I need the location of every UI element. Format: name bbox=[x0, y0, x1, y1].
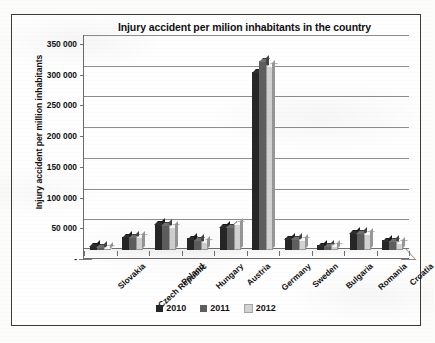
bar-slovakia-2012[interactable] bbox=[104, 247, 111, 250]
bar-czech-republic-2012[interactable] bbox=[136, 236, 143, 250]
bar-poland-2010[interactable] bbox=[155, 224, 162, 250]
x-axis-label-croatia: Croatia bbox=[407, 261, 435, 288]
bar-austria-2010[interactable] bbox=[220, 227, 227, 250]
x-axis-tick-mark bbox=[247, 251, 248, 256]
bar-group bbox=[344, 35, 377, 250]
bar-czech-republic-2011[interactable] bbox=[129, 237, 136, 251]
x-axis-tick-mark bbox=[409, 251, 410, 256]
x-axis-tick-mark bbox=[377, 251, 378, 256]
bar-group bbox=[247, 35, 280, 250]
x-axis-label-austria: Austria bbox=[245, 261, 273, 288]
bar-czech-republic-2010[interactable] bbox=[122, 237, 129, 251]
bar-poland-2011[interactable] bbox=[162, 225, 169, 250]
bar-hungary-2012[interactable] bbox=[201, 241, 208, 250]
bar-bulgaria-2012[interactable] bbox=[331, 244, 338, 250]
x-axis-ticks bbox=[84, 251, 409, 256]
y-axis-title: Injury accident per million inhabitants bbox=[34, 42, 44, 222]
bar-sweden-2011[interactable] bbox=[292, 238, 299, 250]
legend-swatch-2011 bbox=[200, 305, 207, 312]
y-axis-tick-label: 250 000 bbox=[47, 100, 77, 110]
bar-romania-2012[interactable] bbox=[364, 233, 371, 250]
y-axis-tick-label: 100 000 bbox=[47, 193, 77, 203]
bar-romania-2011[interactable] bbox=[357, 233, 364, 250]
x-axis-tick-mark bbox=[149, 251, 150, 256]
x-axis-tick-mark bbox=[279, 251, 280, 256]
legend-label-2011: 2011 bbox=[210, 303, 230, 313]
x-axis-label-romania: Romania bbox=[376, 261, 409, 292]
x-axis-label-slovakia: Slovakia bbox=[116, 261, 148, 291]
legend-item-2010[interactable]: 2010 bbox=[156, 303, 186, 313]
x-axis-tick-mark bbox=[182, 251, 183, 256]
y-axis-tick-label: 350 000 bbox=[47, 39, 77, 49]
bar-austria-2011[interactable] bbox=[227, 226, 234, 250]
x-axis-tick-mark bbox=[214, 251, 215, 256]
bar-groups bbox=[84, 35, 409, 250]
legend: 201020112012 bbox=[12, 303, 420, 313]
x-axis-label-hungary: Hungary bbox=[214, 261, 246, 291]
bar-group bbox=[377, 35, 410, 250]
legend-label-2010: 2010 bbox=[166, 303, 186, 313]
legend-swatch-2010 bbox=[156, 305, 163, 312]
y-axis-tick-label: 50 000 bbox=[51, 223, 77, 233]
bar-croatia-2012[interactable] bbox=[396, 241, 403, 250]
y-axis-tick-label: 150 000 bbox=[47, 162, 77, 172]
bar-sweden-2012[interactable] bbox=[299, 239, 306, 250]
chart-title: Injury accident per milion inhabitants i… bbox=[72, 21, 417, 33]
bar-group bbox=[312, 35, 345, 250]
bar-group bbox=[117, 35, 150, 250]
legend-item-2012[interactable]: 2012 bbox=[244, 303, 276, 313]
legend-swatch-2012 bbox=[244, 304, 253, 313]
x-axis-label-germany: Germany bbox=[279, 261, 312, 293]
legend-label-2012: 2012 bbox=[256, 303, 276, 313]
legend-item-2011[interactable]: 2011 bbox=[200, 303, 230, 313]
bar-group bbox=[279, 35, 312, 250]
x-axis-tick-mark bbox=[312, 251, 313, 256]
bar-germany-2011[interactable] bbox=[259, 61, 266, 250]
bar-sweden-2010[interactable] bbox=[285, 238, 292, 250]
bar-austria-2012[interactable] bbox=[234, 223, 241, 250]
plot-area: -50 000100 000150 000200 000250 000300 0… bbox=[84, 35, 409, 250]
x-axis-tick-mark bbox=[344, 251, 345, 256]
x-axis-tick-mark bbox=[117, 251, 118, 256]
bar-group bbox=[84, 35, 117, 250]
chart-frame: Injury accident per milion inhabitants i… bbox=[11, 14, 421, 326]
x-axis-label-sweden: Sweden bbox=[310, 261, 340, 289]
bar-group bbox=[182, 35, 215, 250]
x-axis-label-poland: Poland bbox=[179, 261, 206, 287]
x-axis-label-bulgaria: Bulgaria bbox=[343, 261, 374, 291]
bar-poland-2012[interactable] bbox=[169, 225, 176, 250]
y-axis-tick-label: 200 000 bbox=[47, 131, 77, 141]
bar-slovakia-2011[interactable] bbox=[97, 246, 104, 250]
bar-romania-2010[interactable] bbox=[350, 233, 357, 250]
bar-bulgaria-2011[interactable] bbox=[324, 246, 331, 250]
bar-germany-2012[interactable] bbox=[266, 65, 273, 251]
bar-germany-2010[interactable] bbox=[252, 72, 259, 250]
x-axis-tick-mark bbox=[84, 251, 85, 256]
bar-croatia-2011[interactable] bbox=[389, 241, 396, 250]
bar-group bbox=[214, 35, 247, 250]
x-axis-labels: SlovakiaCzech RepublicPolandHungaryAustr… bbox=[84, 255, 409, 310]
bar-group bbox=[149, 35, 182, 250]
bar-hungary-2011[interactable] bbox=[194, 240, 201, 250]
y-axis-tick-label: 300 000 bbox=[47, 70, 77, 80]
